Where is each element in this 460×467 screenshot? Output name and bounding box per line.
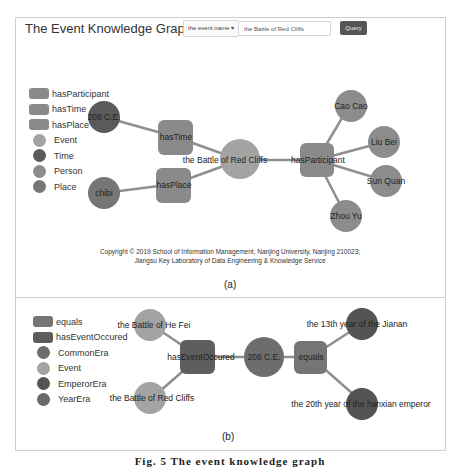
- legend-item-equals[interactable]: equals: [33, 314, 128, 330]
- svg-text:hasParticipant: hasParticipant: [291, 155, 346, 165]
- svg-text:chibi: chibi: [95, 188, 113, 198]
- panel-a-caption: (a): [224, 279, 236, 290]
- node-person-cao-cao[interactable]: Cao Cao: [334, 90, 368, 122]
- svg-text:208 C.E.: 208 C.E.: [247, 352, 280, 362]
- emperorera-circle-icon: [37, 377, 50, 390]
- node-person-zhou-yu[interactable]: Zhou Yu: [330, 200, 362, 232]
- node-time-208ce[interactable]: 208 C.E.: [87, 101, 120, 133]
- svg-text:hasTime: hasTime: [160, 132, 193, 142]
- svg-text:hasEventOccured: hasEventOccured: [167, 352, 235, 362]
- legend-b: equals hasEventOccured CommonEra Event E…: [33, 314, 128, 407]
- commonera-circle-icon: [37, 346, 50, 359]
- node-hasplace[interactable]: hasPlace: [156, 168, 192, 203]
- legend-item-emperorera[interactable]: EmperorEra: [33, 376, 128, 392]
- copyright-line-2: Jiangsu Key Laboratory of Data Engineeri…: [0, 256, 460, 265]
- node-equals[interactable]: equals: [294, 341, 327, 374]
- legend-item-event-b[interactable]: Event: [33, 361, 128, 377]
- node-era-jianan[interactable]: the 13th year of the Jianan: [307, 308, 408, 340]
- yearera-circle-icon: [37, 393, 50, 406]
- figure-caption: Fig. 5 The event knowledge graph: [0, 455, 460, 467]
- node-era-hanxian[interactable]: the 20th year of the hanxian emperor: [291, 388, 431, 420]
- node-person-liu-bei[interactable]: Liu Bei: [368, 126, 400, 158]
- legend-item-haseventoccured[interactable]: hasEventOccured: [33, 330, 128, 346]
- node-commonera-208ce[interactable]: 208 C.E.: [244, 337, 284, 377]
- svg-text:Zhou Yu: Zhou Yu: [330, 211, 362, 221]
- svg-text:Cao Cao: Cao Cao: [334, 101, 368, 111]
- legend-item-yearera[interactable]: YearEra: [33, 392, 128, 408]
- legend-item-commonera[interactable]: CommonEra: [33, 345, 128, 361]
- relation-swatch-icon: [33, 332, 53, 343]
- node-haseventoccured[interactable]: hasEventOccured: [167, 340, 235, 374]
- node-person-sun-quan[interactable]: Sun Quan: [367, 165, 406, 197]
- svg-text:208 C.E.: 208 C.E.: [87, 112, 120, 122]
- node-hastime[interactable]: hasTime: [158, 120, 193, 155]
- svg-text:hasPlace: hasPlace: [157, 180, 192, 190]
- svg-text:the 20th year of the hanxian e: the 20th year of the hanxian emperor: [291, 399, 431, 409]
- svg-text:Liu Bei: Liu Bei: [371, 137, 397, 147]
- node-hasparticipant[interactable]: hasParticipant: [291, 143, 346, 177]
- copyright-notice: Copyright © 2019 School of Information M…: [0, 247, 460, 265]
- svg-text:the 13th year of the Jianan: the 13th year of the Jianan: [307, 319, 408, 329]
- svg-text:equals: equals: [298, 352, 323, 362]
- relation-swatch-icon: [33, 316, 53, 327]
- event-circle-icon: [37, 362, 50, 375]
- node-place-chibi[interactable]: chibi: [88, 177, 120, 209]
- svg-text:the Battle of He Fei: the Battle of He Fei: [118, 320, 191, 330]
- svg-text:the Battle of Red Cliffs: the Battle of Red Cliffs: [183, 155, 267, 165]
- node-event-he-fei[interactable]: the Battle of He Fei: [118, 309, 191, 341]
- svg-text:Sun Quan: Sun Quan: [367, 176, 406, 186]
- panel-b-caption: (b): [222, 431, 234, 442]
- copyright-line-1: Copyright © 2019 School of Information M…: [0, 247, 460, 256]
